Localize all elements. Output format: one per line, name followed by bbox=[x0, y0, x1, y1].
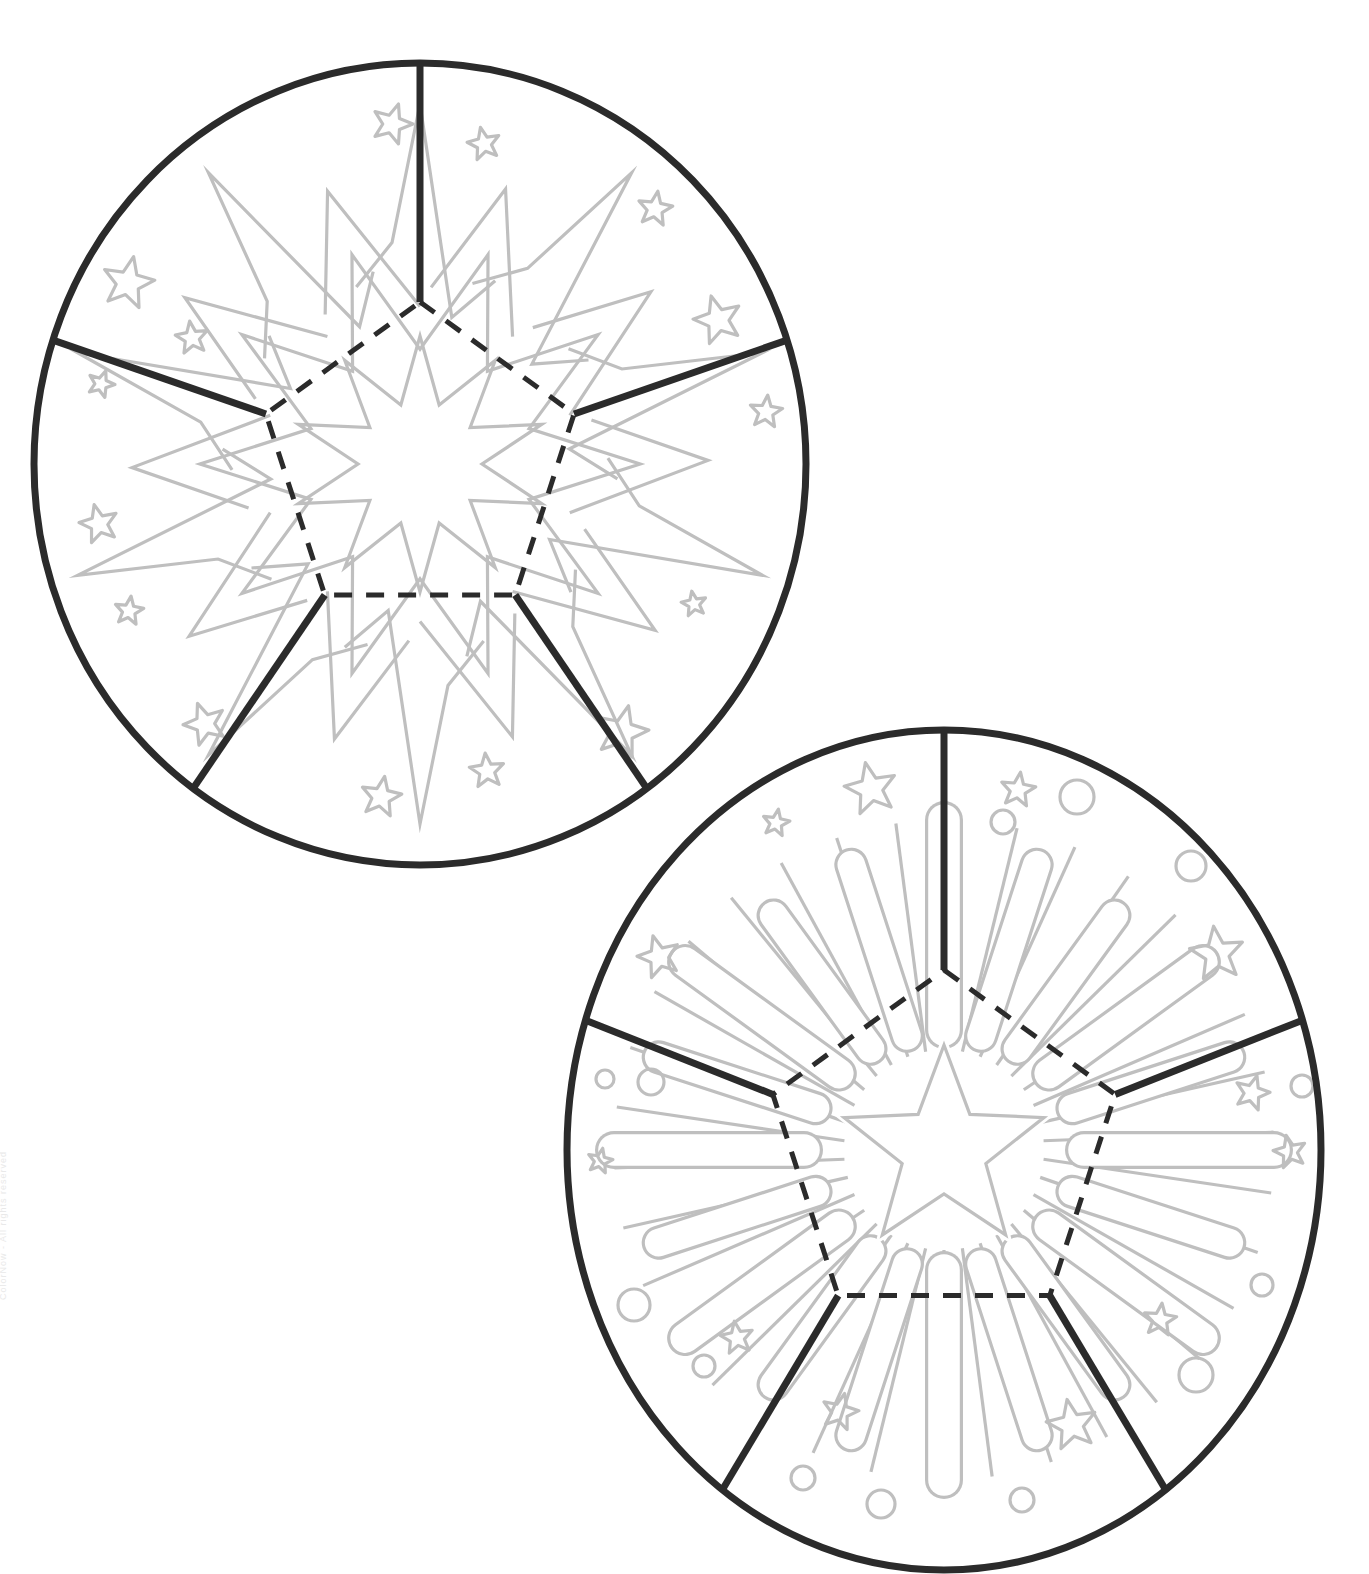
cut-line[interactable] bbox=[193, 595, 325, 788]
decor-star bbox=[639, 191, 673, 225]
artwork-rosette-starburst bbox=[78, 104, 783, 824]
figure-rosette-starburst bbox=[34, 63, 806, 865]
decor-star bbox=[1237, 1076, 1270, 1110]
decor-star bbox=[681, 591, 705, 615]
coloring-sheet-canvas: ColorNow - All rights reserved bbox=[0, 0, 1369, 1574]
starburst-spike bbox=[208, 173, 373, 359]
decor-circle bbox=[638, 1069, 664, 1095]
cut-line[interactable] bbox=[53, 340, 266, 414]
cut-line[interactable] bbox=[722, 1296, 838, 1490]
decor-star bbox=[1046, 1399, 1095, 1448]
decor-star bbox=[116, 596, 144, 624]
decor-circle bbox=[791, 1466, 815, 1490]
decor-star bbox=[362, 776, 401, 816]
inner-star bbox=[298, 336, 541, 592]
decor-star bbox=[750, 395, 782, 427]
decor-circle bbox=[1010, 1488, 1034, 1512]
decor-circle bbox=[618, 1289, 650, 1321]
decor-circle bbox=[1251, 1274, 1273, 1296]
decor-star bbox=[105, 257, 155, 308]
decor-star bbox=[79, 505, 116, 543]
figure-layer bbox=[34, 63, 1321, 1570]
starburst-jag bbox=[325, 191, 420, 314]
rosette-template-svg bbox=[0, 0, 1369, 1574]
decor-star bbox=[1002, 772, 1036, 806]
decor-circle bbox=[867, 1490, 895, 1518]
starburst-jag bbox=[570, 420, 708, 513]
decor-star bbox=[375, 104, 413, 144]
decor-star bbox=[693, 296, 739, 344]
decor-star bbox=[89, 371, 115, 398]
firework-capsule-outline bbox=[1072, 1192, 1229, 1243]
decor-star bbox=[764, 809, 790, 835]
artwork-rosette-firework bbox=[589, 763, 1313, 1518]
decor-star bbox=[844, 763, 894, 814]
firework-capsule-outline bbox=[659, 1192, 816, 1243]
figure-rosette-firework bbox=[567, 730, 1321, 1570]
starburst-spike bbox=[569, 349, 763, 479]
decor-circle bbox=[1176, 851, 1206, 881]
decor-circle bbox=[1179, 1358, 1213, 1392]
decor-star bbox=[469, 753, 503, 786]
decor-circle bbox=[596, 1070, 614, 1088]
decor-star bbox=[467, 127, 499, 159]
decor-star bbox=[175, 321, 207, 353]
decor-circle bbox=[693, 1355, 715, 1377]
decor-circle bbox=[1060, 780, 1094, 814]
cut-line[interactable] bbox=[574, 340, 787, 414]
decor-circle bbox=[991, 810, 1015, 834]
starburst-jag bbox=[420, 613, 515, 736]
decor-circle bbox=[1291, 1075, 1313, 1097]
starburst-jag bbox=[132, 415, 270, 508]
fold-pentagon-dashed bbox=[266, 302, 574, 595]
